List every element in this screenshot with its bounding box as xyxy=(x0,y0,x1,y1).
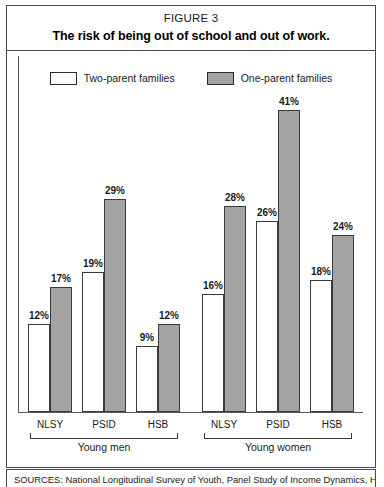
x-axis-tick-label-nlsy-3: NLSY xyxy=(193,419,255,430)
bar-value-label: 24% xyxy=(326,221,360,232)
bar-young-women-nlsy-two-parent xyxy=(202,294,224,412)
bar-young-women-hsb-two-parent xyxy=(310,280,332,412)
bar-value-label: 41% xyxy=(272,96,306,107)
bar-value-label: 12% xyxy=(152,310,186,321)
bars-layer: 12%17%19%29%9%12%16%28%26%41%18%24% xyxy=(6,51,376,413)
x-axis-tick-label-psid-1: PSID xyxy=(73,419,135,430)
bar-young-women-psid-one-parent xyxy=(278,110,300,412)
sources-text: SOURCES: National Longitudinal Survey of… xyxy=(14,474,376,486)
bar-young-women-psid-two-parent xyxy=(256,221,278,412)
x-axis-tick-label-psid-4: PSID xyxy=(247,419,309,430)
bar-young-women-hsb-one-parent xyxy=(332,235,354,412)
bar-value-label: 29% xyxy=(98,185,132,196)
x-axis-tick-label-hsb-5: HSB xyxy=(301,419,363,430)
group-bracket-young-women xyxy=(204,433,352,439)
group-bracket-young-men xyxy=(30,433,178,439)
bar-young-men-nlsy-two-parent xyxy=(28,324,50,412)
bar-young-men-psid-two-parent xyxy=(82,272,104,412)
figure-container: FIGURE 3 The risk of being out of school… xyxy=(0,0,384,487)
bar-value-label: 17% xyxy=(44,273,78,284)
bar-young-men-hsb-one-parent xyxy=(158,324,180,412)
x-axis-tick-label-nlsy-0: NLSY xyxy=(19,419,81,430)
figure-number: FIGURE 3 xyxy=(7,11,375,26)
bar-value-label: 28% xyxy=(218,192,252,203)
bar-young-men-psid-one-parent xyxy=(104,199,126,412)
plot-area: 12%17%19%29%9%12%16%28%26%41%18%24% NLSY… xyxy=(6,51,376,468)
bar-young-men-nlsy-one-parent xyxy=(50,287,72,412)
bar-young-women-nlsy-one-parent xyxy=(224,206,246,412)
x-axis-tick-label-hsb-2: HSB xyxy=(127,419,189,430)
group-label-young-men: Young men xyxy=(30,441,178,453)
group-label-young-women: Young women xyxy=(204,441,352,453)
bar-young-men-hsb-two-parent xyxy=(136,346,158,412)
page-title: The risk of being out of school and out … xyxy=(7,26,375,45)
figure-title-box: FIGURE 3 The risk of being out of school… xyxy=(6,5,376,51)
sources-box: SOURCES: National Longitudinal Survey of… xyxy=(6,469,376,487)
